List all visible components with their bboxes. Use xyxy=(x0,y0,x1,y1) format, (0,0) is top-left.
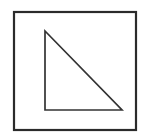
geometry-diagram xyxy=(0,0,141,135)
outer-square xyxy=(14,12,136,130)
inner-right-triangle xyxy=(45,31,122,110)
figure-canvas xyxy=(0,0,141,135)
